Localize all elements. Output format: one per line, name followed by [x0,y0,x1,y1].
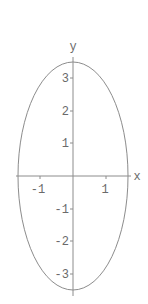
x-tick-label-1: 1 [101,183,108,197]
y-tick-label-neg1: -1 [55,203,69,217]
y-tick-label-neg3: -3 [55,268,69,282]
ellipse-plot: y x -1 1 3 2 1 -1 -2 -3 [0,0,148,304]
x-tick-label-neg1: -1 [31,183,45,197]
y-tick-label-neg2: -2 [55,235,69,249]
y-tick-label-1: 1 [62,137,69,151]
x-axis-label: x [133,170,140,184]
y-tick-label-2: 2 [62,105,69,119]
y-tick-label-3: 3 [62,72,69,86]
y-axis-label: y [69,40,76,54]
